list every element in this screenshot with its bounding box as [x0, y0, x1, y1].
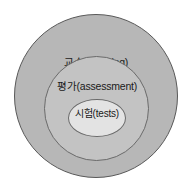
nested-circles-diagram: 교수(teaching) 평가(assessment) 시험(tests): [0, 0, 194, 193]
inner-circle-label: 시험(tests): [0, 109, 194, 119]
middle-circle-label: 평가(assessment): [0, 81, 194, 92]
